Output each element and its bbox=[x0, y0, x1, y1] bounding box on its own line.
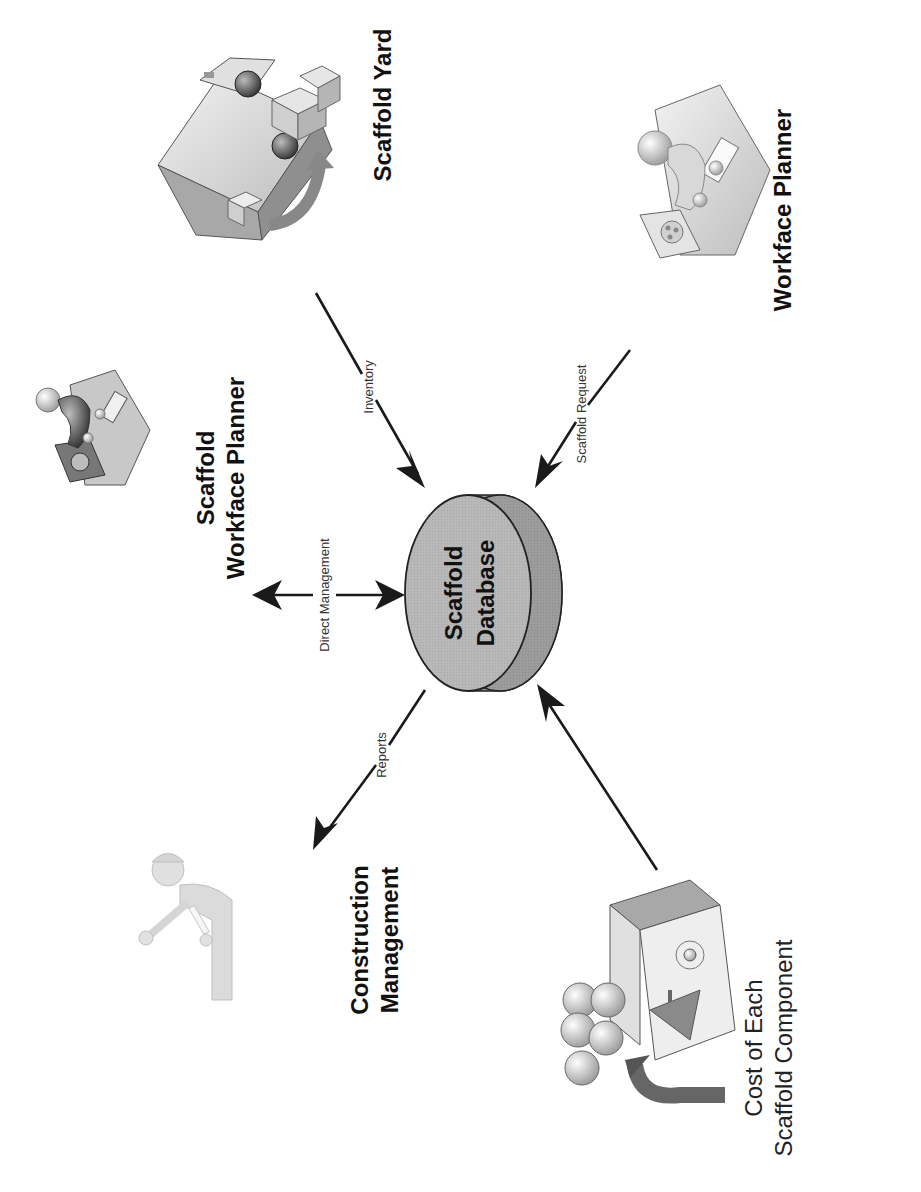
edge-cost bbox=[537, 684, 657, 870]
arrowhead-icon bbox=[396, 450, 425, 488]
edge-scaffold-request: Scaffold Request bbox=[535, 350, 630, 488]
construction-management-label-line1: Construction bbox=[346, 865, 373, 1014]
scaffold-workface-planner-node: Scaffold Workface Planner bbox=[36, 370, 249, 579]
edge-label-direct-management: Direct Management bbox=[317, 538, 332, 652]
construction-management-node: Construction Management bbox=[139, 854, 403, 1015]
arrowhead-icon bbox=[535, 454, 563, 488]
worker-hardhat-icon bbox=[139, 854, 232, 1001]
edge-direct-management: Direct Management bbox=[252, 538, 405, 652]
construction-management-label-line2: Management bbox=[376, 867, 403, 1014]
scaffold-workface-planner-label-line2: Workface Planner bbox=[222, 377, 249, 579]
edge-label-inventory: Inventory bbox=[361, 360, 376, 414]
coins-cashregister-icon bbox=[561, 880, 735, 1096]
edge-label-scaffold-request: Scaffold Request bbox=[574, 364, 589, 463]
scaffold-yard-node: Scaffold Yard bbox=[158, 29, 396, 240]
workface-planner-label: Workface Planner bbox=[769, 109, 796, 311]
scaffold-database-node: Scaffold Database bbox=[405, 495, 562, 691]
database-label-line2: Database bbox=[472, 540, 499, 647]
edge-label-reports: Reports bbox=[374, 732, 389, 778]
scaffold-yard-label: Scaffold Yard bbox=[369, 29, 396, 182]
cost-component-label-line2: Scaffold Component bbox=[770, 939, 797, 1156]
edge-inventory: Inventory bbox=[316, 293, 425, 488]
database-label-line1: Scaffold bbox=[440, 546, 467, 641]
planner-desk-icon bbox=[36, 370, 150, 485]
planner-desk-icon bbox=[638, 85, 770, 258]
cost-component-label-line1: Cost of Each bbox=[740, 979, 767, 1116]
workface-planner-node: Workface Planner bbox=[638, 85, 796, 311]
cost-component-node: Cost of Each Scaffold Component bbox=[561, 880, 797, 1157]
scaffold-database-diagram: Scaffold Database Inventory Scaffold Req… bbox=[0, 0, 921, 1192]
arrowhead-icon bbox=[537, 684, 565, 722]
scaffold-workface-planner-label-line1: Scaffold bbox=[192, 431, 219, 526]
edge-reports: Reports bbox=[313, 690, 425, 850]
truck-boxes-icon bbox=[158, 58, 340, 240]
